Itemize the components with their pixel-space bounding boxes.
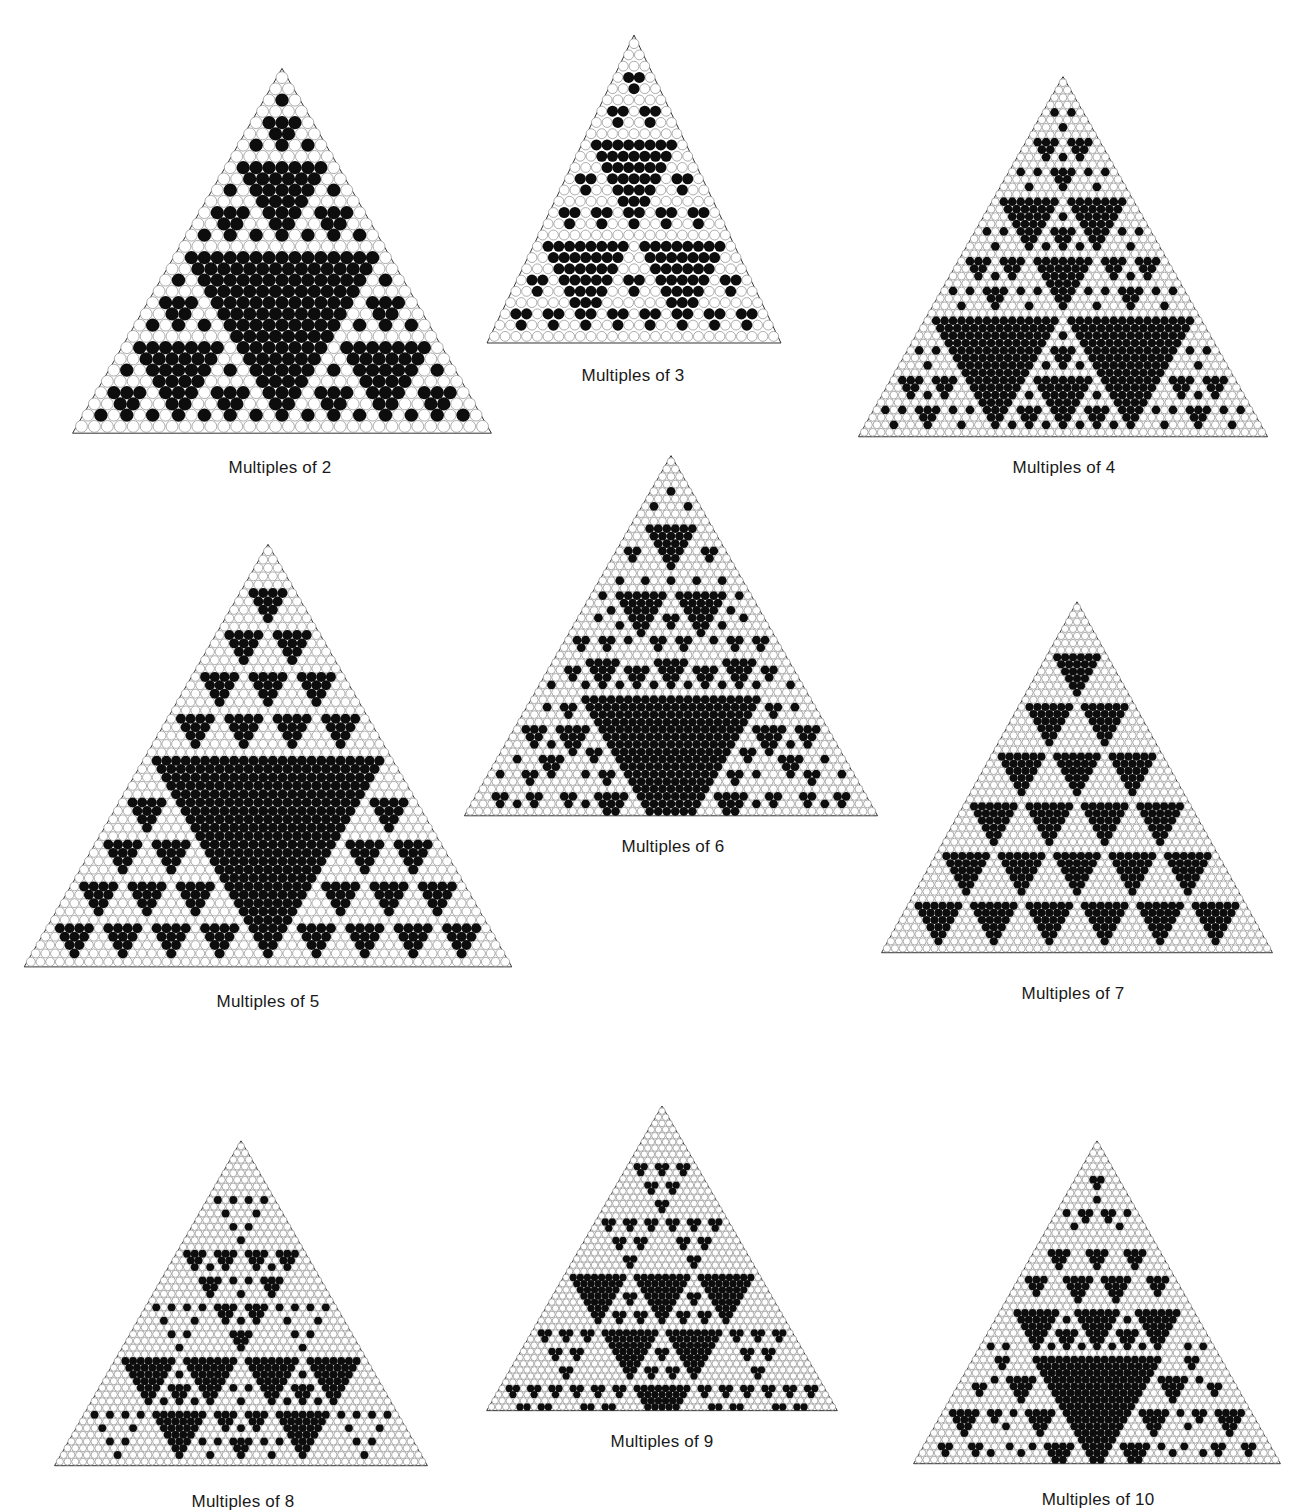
nonmultiple-cells	[883, 604, 1270, 952]
pascal-triangle-graphic	[0, 0, 1303, 1512]
panel-caption: Multiples of 4	[1013, 458, 1116, 478]
pascal-triangle-graphic	[0, 0, 1303, 1512]
panel-caption: Multiples of 5	[217, 992, 320, 1012]
triangle-outline	[487, 35, 781, 343]
panel-caption: Multiples of 3	[582, 366, 685, 386]
panel-caption: Multiples of 6	[622, 837, 725, 857]
multiple-cells	[915, 653, 1240, 945]
triangle-outline	[914, 1141, 1281, 1464]
panel-caption: Multiples of 8	[192, 1492, 295, 1512]
triangle-outline	[24, 544, 512, 967]
panel-caption: Multiples of 10	[1042, 1490, 1155, 1510]
nonmultiple-cells	[56, 1143, 425, 1465]
nonmultiple-cells	[489, 39, 778, 342]
triangle-outline	[487, 1106, 838, 1411]
pascal-triangle-graphic	[0, 0, 1303, 1512]
multiple-cells	[881, 108, 1245, 429]
pascal-triangle-graphic	[0, 0, 1303, 1512]
panel-caption: Multiples of 9	[611, 1432, 714, 1452]
multiple-cells	[938, 1176, 1257, 1464]
pascal-triangle-graphic	[0, 0, 1303, 1512]
triangle-outline	[882, 602, 1273, 953]
pascal-triangle-graphic	[0, 0, 1303, 1512]
triangle-outline	[858, 77, 1267, 437]
multiple-cells	[506, 1163, 819, 1411]
nonmultiple-cells	[860, 79, 1265, 436]
nonmultiple-cells	[488, 1108, 835, 1410]
triangle-outline	[464, 456, 877, 816]
panel-caption: Multiples of 7	[1022, 984, 1125, 1004]
panel-caption: Multiples of 2	[229, 458, 332, 478]
multiple-cells	[492, 487, 851, 816]
triangle-outline	[73, 68, 492, 433]
nonmultiple-cells	[466, 458, 875, 815]
pascal-triangle-graphic	[0, 0, 1303, 1512]
pascal-triangle-graphic	[0, 0, 1303, 1512]
triangle-outline	[55, 1141, 428, 1466]
nonmultiple-cells	[915, 1143, 1278, 1463]
multiple-cells	[94, 93, 470, 421]
multiple-cells	[91, 1196, 392, 1459]
multiple-cells	[55, 588, 481, 958]
multiple-cells	[510, 72, 757, 331]
nonmultiple-cells	[76, 72, 489, 433]
nonmultiple-cells	[26, 547, 509, 967]
pascal-triangle-graphic	[0, 0, 1303, 1512]
